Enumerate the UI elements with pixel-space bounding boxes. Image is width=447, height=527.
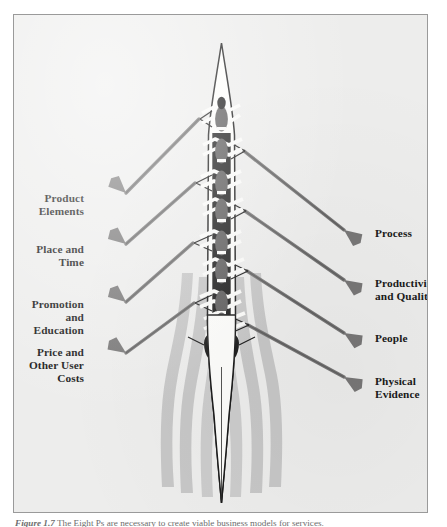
label-process: Process <box>375 227 412 240</box>
label-product-elements: Product Elements <box>39 192 84 218</box>
label-promotion-and-education: Promotion and Education <box>14 298 84 338</box>
figure-caption-lead: Figure 1.7 <box>15 518 55 527</box>
figure-caption: Figure 1.7 The Eight Ps are necessary to… <box>15 518 435 527</box>
label-physical-evidence: Physical Evidence <box>375 375 420 401</box>
label-people: People <box>375 332 408 345</box>
oar-left-2 <box>105 183 195 250</box>
oar-left-1 <box>105 119 199 199</box>
oar-right-2 <box>245 211 366 298</box>
figure-caption-text: The Eight Ps are necessary to create via… <box>57 518 324 527</box>
figure-panel: Product Elements Place and Time Promotio… <box>13 14 428 513</box>
label-place-and-time: Place and Time <box>36 243 84 269</box>
label-price-and-other-user-costs: Price and Other User Costs <box>29 346 84 386</box>
figure-stage: Product Elements Place and Time Promotio… <box>0 0 447 527</box>
oar-right-1 <box>244 151 365 248</box>
oar-left-3 <box>105 243 193 308</box>
label-productivity-and-quality: Productivity and Quality <box>375 277 428 303</box>
